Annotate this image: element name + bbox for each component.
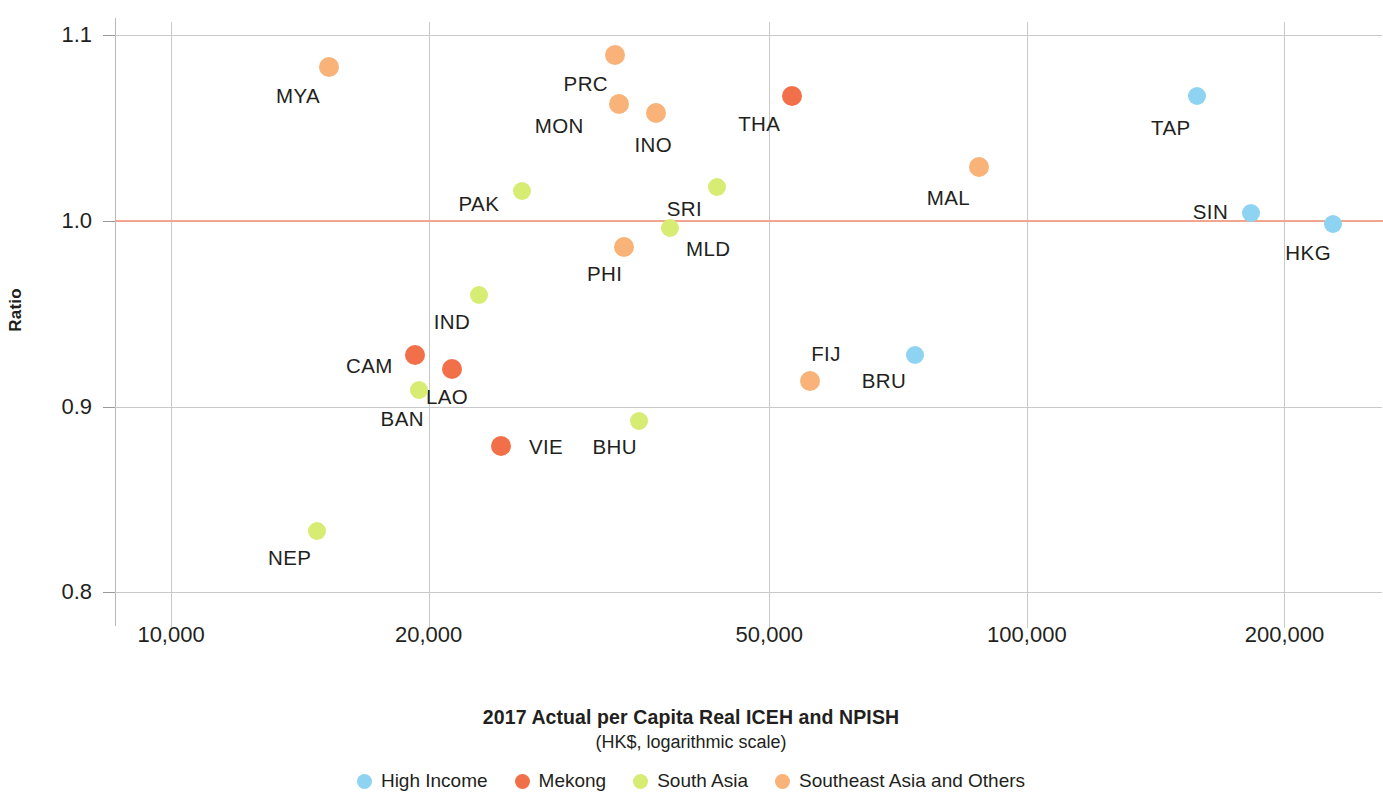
x-tick-label: 100,000	[987, 622, 1067, 648]
data-point-label-mya: MYA	[276, 84, 320, 108]
data-point-mld[interactable]	[661, 219, 679, 237]
data-point-label-tha: THA	[738, 112, 780, 136]
legend-swatch-icon	[515, 774, 530, 789]
gridline-horizontal	[111, 35, 1382, 36]
legend-label: High Income	[381, 770, 488, 792]
data-point-label-prc: PRC	[564, 72, 608, 96]
gridline-vertical	[171, 22, 172, 628]
data-point-hkg[interactable]	[1324, 215, 1342, 233]
legend-item-southeast-asia-and-others[interactable]: Southeast Asia and Others	[775, 770, 1025, 792]
chart-legend: High IncomeMekongSouth AsiaSoutheast Asi…	[0, 770, 1382, 792]
y-axis-title: Ratio	[6, 288, 26, 332]
x-axis-title: 2017 Actual per Capita Real ICEH and NPI…	[0, 706, 1382, 753]
x-tick-label: 200,000	[1245, 622, 1325, 648]
data-point-label-ino: INO	[634, 133, 672, 157]
data-point-mal[interactable]	[969, 157, 989, 177]
data-point-label-lao: LAO	[426, 385, 468, 409]
data-point-label-sri: SRI	[667, 197, 702, 221]
data-point-label-phi: PHI	[587, 262, 622, 286]
gridline-vertical	[1284, 22, 1285, 628]
data-point-mya[interactable]	[319, 57, 339, 77]
data-point-label-bhu: BHU	[593, 435, 637, 459]
x-tick-label: 10,000	[137, 622, 204, 648]
data-point-label-fij: FIJ	[811, 342, 841, 366]
data-point-label-ban: BAN	[381, 407, 424, 431]
data-point-lao[interactable]	[442, 359, 462, 379]
data-point-tap[interactable]	[1188, 87, 1206, 105]
y-tick-label: 0.9	[22, 394, 92, 420]
data-point-sri[interactable]	[708, 178, 726, 196]
y-tick-mark	[103, 407, 115, 408]
x-axis-title-sub: (HK$, logarithmic scale)	[0, 732, 1382, 753]
gridline-vertical	[429, 22, 430, 628]
data-point-ino[interactable]	[646, 103, 666, 123]
data-point-label-cam: CAM	[346, 354, 393, 378]
gridline-vertical	[1027, 22, 1028, 628]
data-point-mon[interactable]	[609, 94, 629, 114]
legend-item-high-income[interactable]: High Income	[357, 770, 488, 792]
data-point-ind[interactable]	[470, 286, 488, 304]
x-axis-title-main: 2017 Actual per Capita Real ICEH and NPI…	[0, 706, 1382, 729]
legend-item-mekong[interactable]: Mekong	[515, 770, 607, 792]
data-point-tha[interactable]	[782, 86, 802, 106]
data-point-nep[interactable]	[308, 522, 326, 540]
data-point-label-mld: MLD	[686, 237, 730, 261]
y-tick-mark	[103, 221, 115, 222]
legend-item-south-asia[interactable]: South Asia	[633, 770, 748, 792]
legend-swatch-icon	[775, 774, 790, 789]
y-tick-label: 0.8	[22, 579, 92, 605]
plot-area: MYAPRCMONINOTHATAPMALSRIPAKSINHKGMLDPHII…	[115, 22, 1382, 622]
y-axis-line	[115, 18, 116, 626]
data-point-label-bru: BRU	[862, 369, 906, 393]
data-point-bhu[interactable]	[630, 412, 648, 430]
data-point-label-sin: SIN	[1193, 200, 1228, 224]
data-point-ban[interactable]	[410, 381, 428, 399]
y-tick-label: 1.0	[22, 208, 92, 234]
data-point-label-pak: PAK	[459, 192, 500, 216]
data-point-fij[interactable]	[800, 371, 820, 391]
data-point-label-ind: IND	[434, 310, 471, 334]
y-tick-label: 1.1	[22, 22, 92, 48]
data-point-label-mal: MAL	[927, 186, 970, 210]
y-tick-mark	[103, 592, 115, 593]
data-point-label-vie: VIE	[529, 435, 563, 459]
data-point-cam[interactable]	[405, 345, 425, 365]
data-point-prc[interactable]	[605, 45, 625, 65]
legend-label: Mekong	[539, 770, 607, 792]
gridline-horizontal	[111, 407, 1382, 408]
data-point-label-tap: TAP	[1151, 116, 1191, 140]
data-point-label-mon: MON	[535, 114, 584, 138]
legend-label: Southeast Asia and Others	[799, 770, 1025, 792]
x-tick-label: 20,000	[395, 622, 462, 648]
data-point-label-hkg: HKG	[1285, 241, 1331, 265]
gridline-horizontal	[111, 592, 1382, 593]
legend-swatch-icon	[633, 774, 648, 789]
data-point-pak[interactable]	[513, 182, 531, 200]
data-point-vie[interactable]	[491, 436, 511, 456]
data-point-label-nep: NEP	[268, 546, 311, 570]
y-tick-mark	[103, 35, 115, 36]
legend-label: South Asia	[657, 770, 748, 792]
data-point-bru[interactable]	[906, 346, 924, 364]
legend-swatch-icon	[357, 774, 372, 789]
data-point-phi[interactable]	[614, 237, 634, 257]
data-point-sin[interactable]	[1242, 204, 1260, 222]
x-tick-label: 50,000	[736, 622, 803, 648]
